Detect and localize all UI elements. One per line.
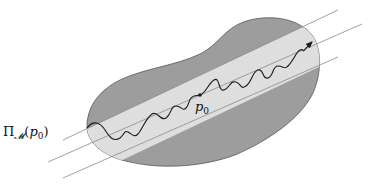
projection-diagram: p0 Π𝓜(p0) <box>0 0 380 184</box>
point-p0 <box>198 93 202 97</box>
label-projection: Π𝓜(p0) <box>3 124 49 141</box>
